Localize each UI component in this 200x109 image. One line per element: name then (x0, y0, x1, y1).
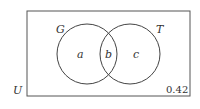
universe-label: U (13, 84, 23, 97)
outside-value: 0.42 (166, 84, 188, 95)
region-c-label: c (133, 48, 139, 61)
set-t-label: T (156, 23, 165, 36)
venn-diagram: G T a b c U 0.42 (0, 0, 200, 109)
region-a-label: a (77, 48, 84, 61)
region-b-label: b (105, 48, 112, 61)
set-g-label: G (56, 23, 65, 36)
